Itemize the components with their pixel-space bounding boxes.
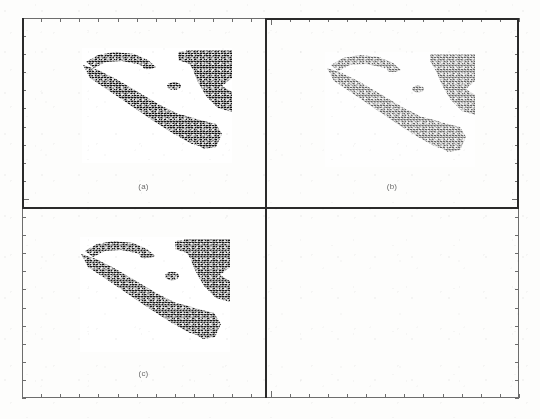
coastline-raster-c	[80, 237, 230, 352]
panel-a: (a)	[22, 18, 265, 207]
panel-caption-a: (a)	[22, 182, 265, 191]
scanned-figure-page: (a)	[0, 0, 540, 419]
tick-left	[22, 398, 26, 399]
coastline-raster-b	[325, 52, 475, 167]
tick-bottom	[519, 394, 520, 398]
panel-b: (b)	[267, 20, 517, 207]
panel-rule-right	[517, 18, 519, 209]
panel-caption-b: (b)	[267, 182, 517, 191]
coastline-raster-a	[82, 48, 232, 163]
tick-right	[515, 398, 519, 399]
panel-d-empty	[267, 209, 517, 398]
panel-c: (c)	[22, 209, 265, 398]
panel-caption-c: (c)	[22, 369, 265, 378]
tick-top	[519, 18, 520, 22]
